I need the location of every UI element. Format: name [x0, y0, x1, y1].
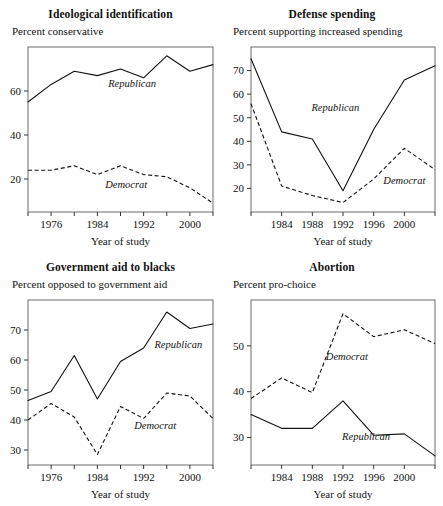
x-tick-label: 1988: [301, 218, 324, 230]
four-panel-chart-figure: Ideological identification Percent conse…: [0, 0, 443, 506]
series-line-republican: [28, 312, 213, 401]
x-tick-label: 2000: [393, 218, 416, 230]
series-line-republican: [251, 59, 435, 191]
x-tick-label: 1984: [271, 218, 294, 230]
series-annotation-republican: Republican: [153, 339, 202, 350]
y-tick-label: 20: [10, 173, 22, 185]
x-tick-label: 2000: [179, 471, 202, 483]
x-tick-label: 1992: [133, 471, 155, 483]
y-tick-label: 50: [233, 340, 245, 352]
series-line-democrat: [28, 393, 213, 455]
x-tick-label: 2000: [179, 218, 202, 230]
series-line-republican: [251, 401, 435, 456]
y-tick-label: 60: [233, 88, 245, 100]
plot-area: 2040601976198419922000Year of studyRepub…: [0, 0, 221, 253]
x-tick-label: 1996: [363, 471, 386, 483]
x-tick-label: 1992: [332, 471, 354, 483]
plot-frame: [251, 47, 435, 212]
y-tick-label: 40: [233, 385, 245, 397]
x-tick-label: 1984: [86, 471, 109, 483]
series-line-democrat: [251, 104, 435, 203]
series-annotation-republican: Republican: [107, 78, 156, 89]
y-tick-label: 50: [10, 384, 22, 396]
panel-defense-spending: Defense spending Percent supporting incr…: [221, 0, 443, 253]
x-axis-title: Year of study: [314, 235, 373, 247]
y-tick-label: 40: [10, 414, 22, 426]
series-annotation-democrat: Democrat: [133, 420, 177, 431]
plot-area: 30405060701976198419922000Year of studyR…: [0, 253, 221, 506]
y-tick-label: 60: [10, 85, 22, 97]
panel-ideological-identification: Ideological identification Percent conse…: [0, 0, 221, 253]
series-annotation-democrat: Democrat: [325, 351, 369, 362]
series-annotation-republican: Republican: [310, 102, 359, 113]
series-annotation-republican: Republican: [341, 431, 390, 442]
x-tick-label: 1976: [40, 471, 63, 483]
x-axis-title: Year of study: [91, 488, 150, 500]
y-tick-label: 40: [10, 129, 22, 141]
x-tick-label: 1992: [332, 218, 354, 230]
y-tick-label: 30: [233, 431, 245, 443]
x-tick-label: 1984: [86, 218, 109, 230]
series-annotation-democrat: Democrat: [382, 175, 426, 186]
y-tick-label: 50: [233, 112, 245, 124]
y-tick-label: 40: [233, 135, 245, 147]
plot-area: 30405019841988199219962000Year of studyR…: [221, 253, 443, 506]
x-tick-label: 1988: [301, 471, 324, 483]
panel-abortion: Abortion Percent pro-choice 304050198419…: [221, 253, 443, 506]
x-tick-label: 1976: [40, 218, 63, 230]
x-tick-label: 1996: [363, 218, 386, 230]
y-tick-label: 30: [10, 444, 22, 456]
y-tick-label: 70: [233, 64, 245, 76]
y-tick-label: 60: [10, 354, 22, 366]
series-annotation-democrat: Democrat: [104, 179, 148, 190]
x-tick-label: 1992: [133, 218, 155, 230]
y-tick-label: 70: [10, 324, 22, 336]
y-tick-label: 30: [233, 159, 245, 171]
x-axis-title: Year of study: [91, 235, 150, 247]
plot-area: 20304050607019841988199219962000Year of …: [221, 0, 443, 253]
x-tick-label: 2000: [393, 471, 416, 483]
x-axis-title: Year of study: [314, 488, 373, 500]
y-tick-label: 20: [233, 182, 245, 194]
x-tick-label: 1984: [271, 471, 294, 483]
panel-government-aid-to-blacks: Government aid to blacks Percent opposed…: [0, 253, 221, 506]
